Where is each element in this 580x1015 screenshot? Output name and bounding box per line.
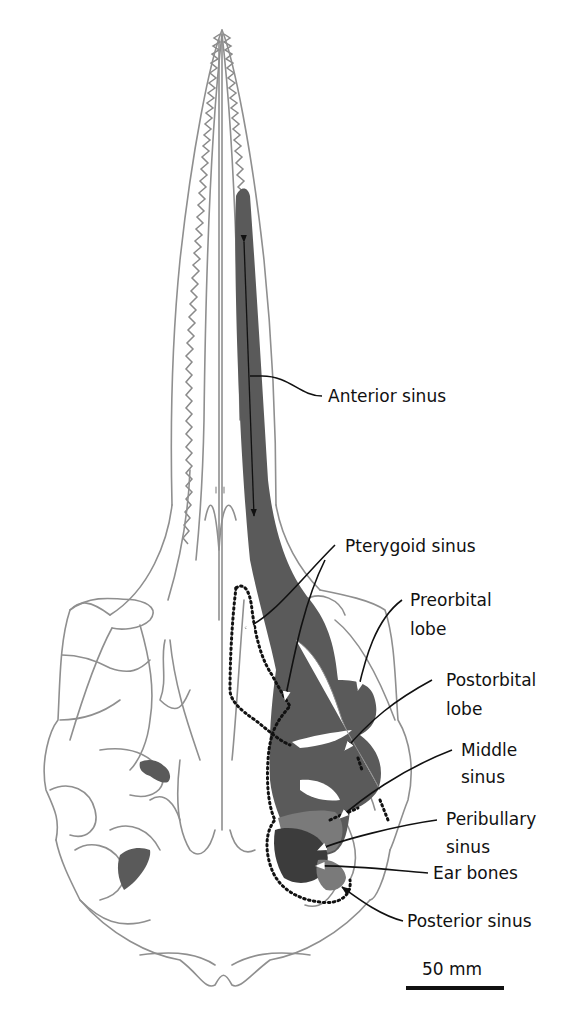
label-peribullary-sinus-line1: Peribullary — [446, 808, 536, 830]
scale-bar — [406, 986, 504, 990]
label-postorbital-lobe-line1: Postorbital — [446, 669, 536, 691]
label-posterior-sinus: Posterior sinus — [407, 910, 532, 932]
label-pterygoid-sinus: Pterygoid sinus — [345, 535, 476, 557]
anterior-sinus-shape — [235, 189, 381, 855]
label-preorbital-lobe-line2: lobe — [410, 618, 446, 640]
label-peribullary-sinus-line2: sinus — [446, 836, 490, 858]
leader-posterior — [342, 887, 403, 921]
label-middle-sinus-line2: sinus — [461, 766, 505, 788]
label-middle-sinus-line1: Middle — [461, 739, 517, 761]
left-sinus-patches — [118, 760, 170, 890]
label-preorbital-lobe-line1: Preorbital — [410, 589, 492, 611]
label-postorbital-lobe-line2: lobe — [446, 698, 482, 720]
label-anterior-sinus: Anterior sinus — [328, 385, 446, 407]
scale-bar-label: 50 mm — [422, 958, 482, 980]
label-ear-bones: Ear bones — [433, 862, 518, 884]
